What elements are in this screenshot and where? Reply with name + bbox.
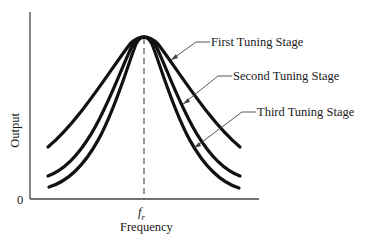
curve-second-stage <box>48 37 240 176</box>
label-second-stage: Second Tuning Stage <box>233 70 339 83</box>
label-first-stage: First Tuning Stage <box>211 36 303 49</box>
x-axis-label: Frequency <box>120 221 173 234</box>
resonance-diagram <box>0 0 369 242</box>
y-axis-label: Output <box>0 100 30 160</box>
origin-label: 0 <box>17 194 23 207</box>
leader-first-stage <box>171 42 210 60</box>
label-third-stage: Third Tuning Stage <box>257 106 354 119</box>
